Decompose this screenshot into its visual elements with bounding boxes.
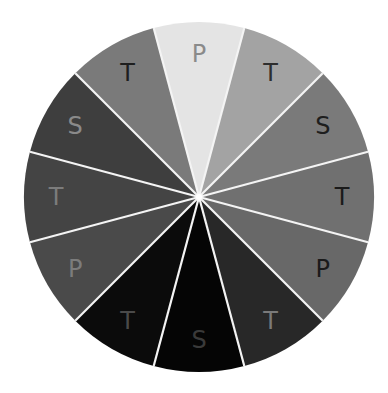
wheel-hub: [196, 194, 202, 200]
segment-label: T: [119, 307, 135, 335]
segment-label: P: [68, 255, 82, 283]
letter-wheel: PTSTPTSTPTST: [0, 0, 388, 393]
segment-label: P: [316, 255, 330, 283]
segment-label: S: [191, 326, 206, 354]
segment-label: T: [119, 59, 135, 87]
segment-label: T: [48, 183, 64, 211]
segment-label: P: [192, 40, 206, 68]
segment-label: T: [262, 59, 278, 87]
segment-label: S: [68, 112, 83, 140]
segment-label: T: [334, 183, 350, 211]
segment-label: T: [262, 307, 278, 335]
segment-label: S: [315, 112, 330, 140]
